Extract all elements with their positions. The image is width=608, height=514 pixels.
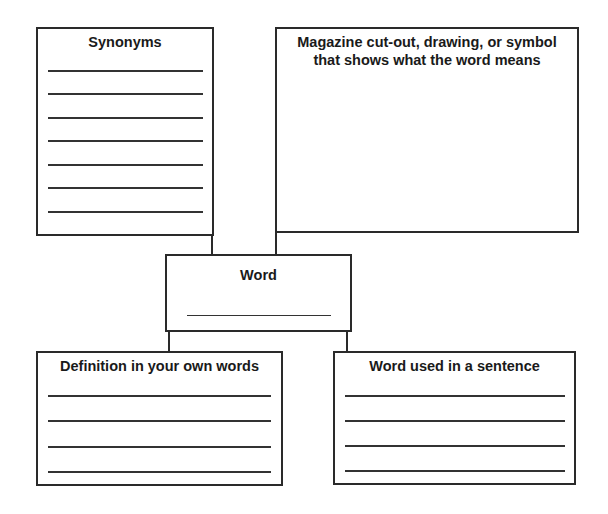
picture-box[interactable]: Magazine cut-out, drawing, or symbol tha… [275, 27, 579, 233]
synonyms-box: Synonyms [36, 27, 214, 236]
synonym-line-1[interactable] [48, 70, 203, 72]
definition-box: Definition in your own words [36, 351, 283, 486]
synonym-line-5[interactable] [48, 164, 203, 166]
connector-synonyms-word [211, 234, 213, 256]
connector-word-sentence [346, 330, 348, 352]
sentence-line-2[interactable] [345, 420, 565, 422]
connector-word-definition [168, 330, 170, 352]
synonym-line-3[interactable] [48, 117, 203, 119]
sentence-title: Word used in a sentence [335, 357, 574, 375]
synonym-line-2[interactable] [48, 93, 203, 95]
synonyms-title: Synonyms [38, 33, 212, 51]
word-title: Word [167, 266, 350, 284]
definition-line-1[interactable] [48, 395, 271, 397]
definition-line-3[interactable] [48, 446, 271, 448]
synonym-line-4[interactable] [48, 140, 203, 142]
synonym-line-6[interactable] [48, 187, 203, 189]
picture-title-line-2: that shows what the word means [277, 51, 577, 69]
definition-title: Definition in your own words [38, 357, 281, 375]
connector-picture-word [275, 231, 277, 256]
picture-title-line-1: Magazine cut-out, drawing, or symbol [277, 33, 577, 51]
sentence-line-1[interactable] [345, 395, 565, 397]
definition-line-4[interactable] [48, 471, 271, 473]
definition-line-2[interactable] [48, 420, 271, 422]
sentence-line-3[interactable] [345, 445, 565, 447]
sentence-line-4[interactable] [345, 470, 565, 472]
word-line[interactable] [187, 315, 331, 316]
word-box: Word [165, 254, 352, 332]
synonym-line-7[interactable] [48, 211, 203, 213]
sentence-box: Word used in a sentence [333, 351, 576, 485]
